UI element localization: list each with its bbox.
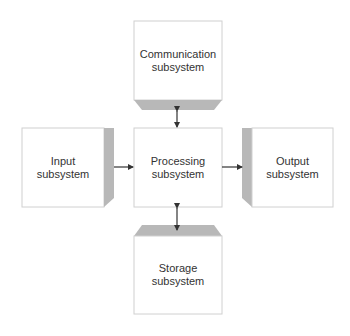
- output-label-line1: Output: [276, 155, 309, 168]
- communication-label-line2: subsystem: [152, 61, 205, 74]
- communication-bevel: [134, 100, 222, 110]
- processing-label-line1: Processing: [151, 155, 205, 168]
- output-bevel: [242, 128, 252, 207]
- processing-label: Processing subsystem: [134, 128, 222, 207]
- input-label: Input subsystem: [22, 128, 104, 207]
- storage-bevel: [134, 225, 222, 236]
- input-label-line2: subsystem: [37, 168, 90, 181]
- storage-label-line2: subsystem: [152, 275, 205, 288]
- processing-label-line2: subsystem: [152, 168, 205, 181]
- storage-label: Storage subsystem: [134, 236, 222, 314]
- storage-label-line1: Storage: [159, 262, 198, 275]
- output-label-line2: subsystem: [266, 168, 319, 181]
- communication-label: Communication subsystem: [134, 21, 222, 100]
- communication-label-line1: Communication: [140, 48, 216, 61]
- input-bevel: [104, 128, 114, 207]
- output-label: Output subsystem: [252, 128, 333, 207]
- input-label-line1: Input: [51, 155, 75, 168]
